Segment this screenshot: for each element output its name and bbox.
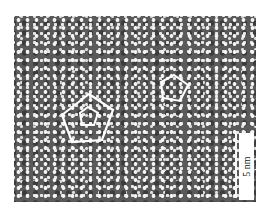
right-pentagon-overlay [161,75,188,101]
scale-bar [235,133,237,198]
scale-label: 5 nm [241,156,252,176]
micrograph-image: 5 nm [14,16,256,202]
small-pentagon-overlay [80,107,98,125]
large-pentagon-overlay [62,94,113,142]
pentagon-overlays [14,16,256,202]
scale-label-box: 5 nm [239,133,254,200]
